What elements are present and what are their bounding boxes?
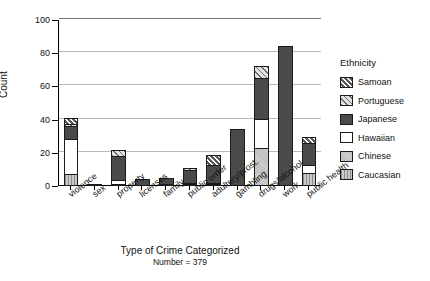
bar-slot	[302, 19, 317, 185]
legend-entry[interactable]: Japanese	[340, 111, 430, 127]
y-tick-label: 20	[40, 148, 50, 157]
y-axis-title: Count	[0, 71, 9, 98]
bar-slot	[87, 19, 102, 185]
y-tick-label: 60	[40, 82, 50, 91]
y-tick-label: 0	[45, 182, 50, 191]
legend-swatch	[340, 169, 353, 180]
plot-area	[58, 20, 320, 186]
legend-title: Ethnicity	[340, 57, 430, 68]
legend-swatch	[340, 95, 353, 106]
legend-swatch	[340, 151, 353, 162]
bar-segment	[302, 137, 317, 144]
bar-segment	[64, 118, 79, 125]
bar-slot	[278, 19, 293, 185]
bar-slot	[64, 19, 79, 185]
legend-entry[interactable]: Chinese	[340, 148, 430, 164]
bar-segment	[254, 119, 269, 149]
legend-swatch	[340, 77, 353, 88]
bar-segment	[64, 139, 79, 176]
x-axis-title: Type of Crime Categorized	[0, 245, 360, 256]
bar-slot	[206, 19, 221, 185]
legend-entry-group: SamoanPortugueseJapaneseHawaiianChineseC…	[340, 74, 430, 183]
bar-segment	[254, 78, 269, 120]
x-axis-subtitle: Number = 379	[0, 257, 360, 267]
y-axis: Count 020406080100	[0, 20, 58, 187]
legend-entry[interactable]: Hawaiian	[340, 130, 430, 146]
bar-slot	[183, 19, 198, 185]
legend-label: Japanese	[358, 114, 397, 124]
legend-label: Hawaiian	[358, 133, 395, 143]
stacked-bar[interactable]	[111, 150, 126, 185]
bar-group	[59, 19, 321, 185]
legend-entry[interactable]: Caucasian	[340, 167, 430, 183]
legend-label: Chinese	[358, 151, 391, 161]
legend-entry[interactable]: Portuguese	[340, 93, 430, 109]
stacked-bar[interactable]	[302, 137, 317, 185]
bar-segment	[302, 143, 317, 166]
legend-label: Portuguese	[358, 96, 404, 106]
bar-slot	[111, 19, 126, 185]
bar-segment	[111, 150, 126, 157]
bar-segment	[254, 66, 269, 79]
y-tick-label: 100	[35, 16, 50, 25]
bar-slot	[230, 19, 245, 185]
bar-segment	[111, 156, 126, 181]
bar-slot	[135, 19, 150, 185]
legend-label: Caucasian	[358, 170, 401, 180]
chart-figure: Count 020406080100 violencesexpropertyli…	[0, 0, 430, 281]
bar-segment	[64, 126, 79, 139]
legend-swatch	[340, 132, 353, 143]
legend: Ethnicity SamoanPortugueseJapaneseHawaii…	[340, 57, 430, 185]
legend-label: Samoan	[358, 77, 392, 87]
legend-swatch	[340, 114, 353, 125]
bar-segment	[183, 168, 198, 171]
stacked-bar[interactable]	[64, 118, 79, 185]
y-tick	[52, 186, 58, 187]
legend-entry[interactable]: Samoan	[340, 74, 430, 90]
y-tick-label: 40	[40, 115, 50, 124]
y-tick-label: 80	[40, 49, 50, 58]
bar-slot	[159, 19, 174, 185]
